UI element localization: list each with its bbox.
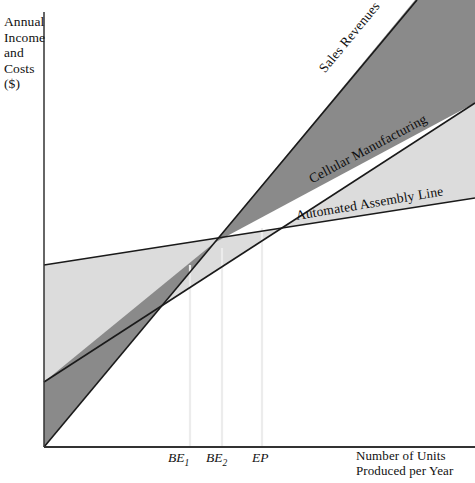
y-axis-title: Annual Income and Costs ($) <box>4 14 64 92</box>
chart-plot-area <box>0 0 475 483</box>
tick-be2-subscript: 2 <box>223 458 228 468</box>
tick-be1-subscript: 1 <box>185 458 190 468</box>
breakeven-chart-figure: · · · · · · · · · · · · · · Annual Incom… <box>0 0 475 483</box>
line-cellular-manufacturing <box>44 103 475 382</box>
line-sales-revenues <box>44 0 417 447</box>
tick-be2-main: BE <box>206 450 223 465</box>
x-tick-label-ep: EP <box>252 450 269 466</box>
tick-be1-main: BE <box>168 450 185 465</box>
x-tick-label-be2: BE2 <box>206 450 227 468</box>
x-tick-label-be1: BE1 <box>168 450 189 468</box>
x-axis-title: Number of Units Produced per Year <box>356 448 475 478</box>
